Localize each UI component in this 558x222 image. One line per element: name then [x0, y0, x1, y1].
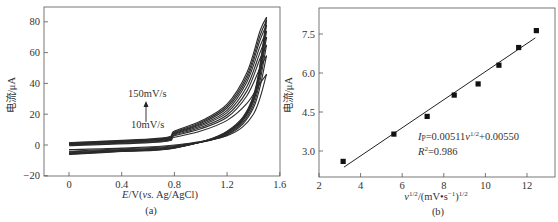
chart-b-y-axis: 3.04.56.07.5 — [302, 29, 323, 157]
chart-a-cyclic-voltammetry: −20020406080 00.40.81.21.6 150mV/s 10mV/… — [5, 7, 286, 217]
r-squared: R2=0.986 — [417, 145, 457, 157]
x-label-mv: /(mV — [418, 191, 441, 203]
cv-reverse-scan — [69, 20, 267, 154]
y-tick-label: 6.0 — [302, 68, 315, 79]
x-tick-label: 1.2 — [221, 179, 234, 190]
y-tick-label: 60 — [30, 47, 41, 58]
data-point-square — [516, 45, 521, 50]
chart-a-x-axis: 00.40.81.21.6 — [66, 172, 286, 190]
data-point-square — [391, 132, 396, 137]
x-tick-label: 12 — [522, 180, 533, 191]
x-tick-label: 10 — [480, 180, 491, 191]
cv-reverse-scan — [69, 25, 267, 154]
eq-slope: =0.00511 — [426, 131, 466, 142]
chart-b-x-label: v1/2/(mV•s−1)1/2 — [404, 190, 468, 203]
fit-equation: IP=0.00511v1/2+0.00550 — [417, 130, 519, 143]
x-label-sup3: 1/2 — [459, 190, 468, 198]
chart-a-cv-curves — [69, 17, 267, 154]
x-tick-label: 0 — [66, 179, 71, 190]
y-tick-label: 3.0 — [302, 146, 315, 157]
y-tick-label: 80 — [30, 16, 41, 27]
x-tick-label: 2 — [316, 180, 321, 191]
chart-b-data-points — [341, 28, 539, 164]
x-label-ref: Ag/AgCl) — [154, 189, 199, 201]
arrow-head-icon — [144, 101, 149, 107]
data-point-square — [341, 159, 346, 164]
cv-forward-scan — [69, 74, 267, 146]
chart-a-x-label: E/V(vs. Ag/AgCl) — [121, 189, 198, 201]
chart-a-caption: (a) — [145, 205, 157, 217]
data-point-square — [496, 63, 501, 68]
cv-reverse-scan — [69, 37, 267, 153]
x-tick-label: 1.6 — [273, 179, 286, 190]
figure-canvas: −20020406080 00.40.81.21.6 150mV/s 10mV/… — [0, 0, 558, 222]
x-label-vs: vs. — [143, 189, 154, 200]
chart-b-x-axis: 24681012 — [316, 173, 532, 191]
chart-a-y-label: 电流/μA — [5, 77, 17, 114]
data-point-square — [452, 93, 457, 98]
r-value: =0.986 — [428, 146, 458, 157]
x-label-v: /V( — [129, 189, 144, 201]
y-tick-label: 20 — [30, 109, 41, 120]
y-tick-label: 40 — [30, 78, 41, 89]
y-tick-label: 0 — [35, 140, 40, 151]
annotation-150mv: 150mV/s — [128, 88, 167, 99]
data-point-square — [534, 28, 539, 33]
data-point-square — [425, 114, 430, 119]
cv-reverse-scan — [69, 17, 267, 154]
y-tick-label: −20 — [24, 170, 40, 181]
x-tick-label: 6 — [400, 180, 405, 191]
y-tick-label: 4.5 — [302, 107, 315, 118]
x-tick-label: 4 — [358, 180, 364, 191]
chart-b-caption: (b) — [432, 206, 445, 218]
x-tick-label: 8 — [441, 180, 446, 191]
y-tick-label: 7.5 — [302, 29, 315, 40]
chart-b-y-label: 电流/μA — [282, 77, 294, 114]
data-point-square — [476, 81, 481, 86]
eq-intercept: +0.00550 — [479, 131, 519, 142]
annotation-10mv: 10mV/s — [131, 119, 164, 130]
chart-b-linear-fit: 3.04.56.07.5 24681012 IP=0.00511v1/2+0.0… — [282, 8, 555, 218]
